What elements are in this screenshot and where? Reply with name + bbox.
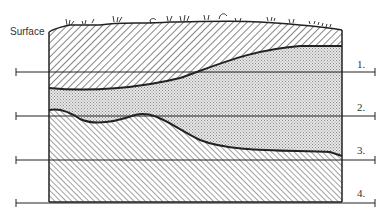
level-label-3: 3. (357, 144, 365, 156)
surface-label: Surface (10, 26, 44, 37)
level-label-2: 2. (357, 101, 365, 113)
level-label-4: 4. (357, 187, 365, 199)
soil-profile-diagram (0, 0, 391, 218)
level-label-1: 1. (357, 58, 365, 70)
